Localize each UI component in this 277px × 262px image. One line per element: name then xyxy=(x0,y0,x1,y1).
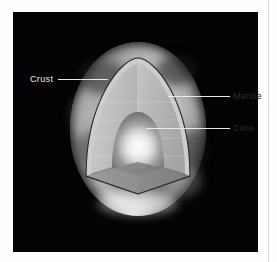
label-crust: Crust xyxy=(30,74,53,84)
mantle-leader-line xyxy=(168,96,230,97)
cutaway-diagram xyxy=(70,42,206,216)
label-mantle: Mantle xyxy=(233,91,262,101)
figure-root: Crust Mantle Core xyxy=(0,0,277,262)
crust-leader-line xyxy=(58,79,108,80)
cutaway-wedge xyxy=(70,42,206,216)
core-leader-line xyxy=(146,128,230,129)
page-edge-rule xyxy=(268,0,269,262)
figure-panel: Crust xyxy=(13,12,258,252)
label-core: Core xyxy=(233,123,254,133)
